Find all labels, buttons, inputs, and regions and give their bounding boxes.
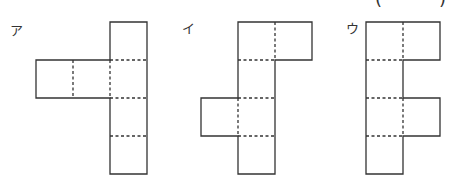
net-figure-u (366, 22, 440, 174)
cube-nets-diagram (0, 0, 452, 180)
net-figure-i (201, 22, 312, 174)
net-figure-a (36, 22, 147, 174)
